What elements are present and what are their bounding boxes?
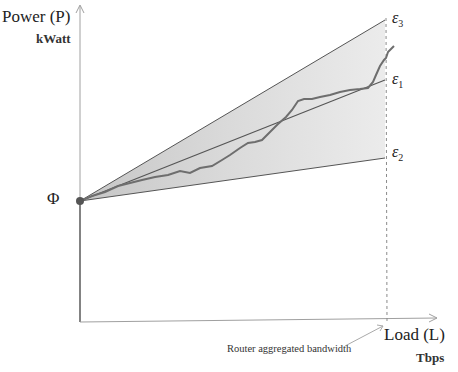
router-bandwidth-annotation: Router aggregated bandwidth [227, 343, 351, 354]
epsilon3-subscript: 3 [398, 18, 403, 29]
origin-label-phi: Φ [47, 189, 59, 209]
bandwidth-dashed-line [386, 18, 387, 322]
phi-origin-dot [76, 197, 84, 205]
y-axis-unit: kWatt [36, 31, 71, 47]
epsilon3-label: ε3 [392, 9, 403, 29]
y-axis-label: Power (P) [2, 7, 70, 27]
epsilon2-label: ε2 [392, 143, 403, 163]
x-axis-label: Load (L) [384, 325, 445, 345]
x-axis [80, 318, 437, 322]
x-axis-unit: Tbps [416, 350, 444, 366]
epsilon1-label: ε1 [392, 70, 403, 90]
epsilon1-subscript: 1 [398, 79, 403, 90]
power-load-diagram [0, 0, 458, 372]
epsilon2-subscript: 2 [398, 152, 403, 163]
